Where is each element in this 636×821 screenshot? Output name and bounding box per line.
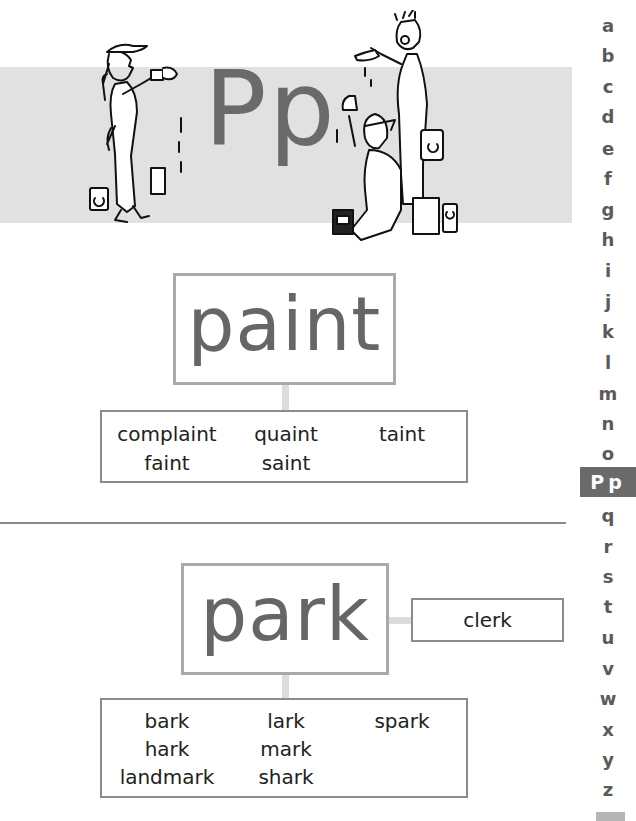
alpha-index-x[interactable]: x	[580, 719, 636, 740]
painter-men-illustration	[325, 10, 485, 255]
alpha-index-z[interactable]: z	[580, 779, 636, 800]
related-words-box: complaint quaint taint faint saint	[100, 410, 468, 483]
related-word: bark	[145, 709, 190, 733]
alpha-index-k[interactable]: k	[580, 321, 636, 342]
alpha-index-q[interactable]: q	[580, 505, 636, 526]
alpha-index-v[interactable]: v	[580, 658, 636, 679]
alpha-index-h[interactable]: h	[580, 229, 636, 250]
alpha-index-p-active[interactable]: Pp	[580, 467, 636, 497]
alpha-index-i[interactable]: i	[580, 260, 636, 281]
related-word: landmark	[120, 765, 215, 789]
side-word-box: clerk	[411, 598, 564, 642]
related-word: shark	[258, 765, 313, 789]
related-word: lark	[267, 709, 305, 733]
related-word: mark	[260, 737, 312, 761]
alpha-index-u[interactable]: u	[580, 627, 636, 648]
alpha-index-b[interactable]: b	[580, 45, 636, 66]
alpha-index-t[interactable]: t	[580, 596, 636, 617]
related-word: complaint	[117, 422, 216, 446]
related-words-box: bark lark spark hark mark landmark shark	[100, 698, 468, 798]
related-word: hark	[145, 737, 190, 761]
alpha-index-g[interactable]: g	[580, 199, 636, 220]
alpha-index-y[interactable]: y	[580, 749, 636, 770]
headword: park	[200, 577, 370, 651]
headword-box-paint: paint	[173, 273, 396, 385]
connector-line	[282, 675, 289, 699]
painter-woman-illustration	[85, 38, 185, 230]
alpha-index-n[interactable]: n	[580, 413, 636, 434]
alpha-index-w[interactable]: w	[580, 688, 636, 709]
alpha-index-s[interactable]: s	[580, 566, 636, 587]
alpha-index-j[interactable]: j	[580, 291, 636, 312]
alpha-index-r[interactable]: r	[580, 536, 636, 557]
headword-box-park: park	[181, 563, 389, 675]
alpha-index-d[interactable]: d	[580, 106, 636, 127]
related-word: spark	[374, 709, 429, 733]
connector-line	[282, 385, 289, 411]
alpha-index-m[interactable]: m	[580, 383, 636, 404]
alpha-index-c[interactable]: c	[580, 76, 636, 97]
related-word: taint	[379, 422, 425, 446]
related-word: quaint	[254, 422, 318, 446]
headword: paint	[188, 287, 382, 361]
alpha-index-o[interactable]: o	[580, 443, 636, 464]
alpha-index-l[interactable]: l	[580, 352, 636, 373]
section-divider	[0, 522, 566, 524]
side-word: clerk	[463, 608, 512, 632]
alpha-index-f[interactable]: f	[580, 168, 636, 189]
alpha-index-e[interactable]: e	[580, 138, 636, 159]
related-word: saint	[262, 451, 311, 475]
alpha-index-a[interactable]: a	[580, 15, 636, 36]
letter-heading: Pp	[204, 56, 337, 160]
connector-line	[389, 617, 412, 624]
related-word: faint	[144, 451, 189, 475]
page-edge-tab	[596, 812, 625, 821]
